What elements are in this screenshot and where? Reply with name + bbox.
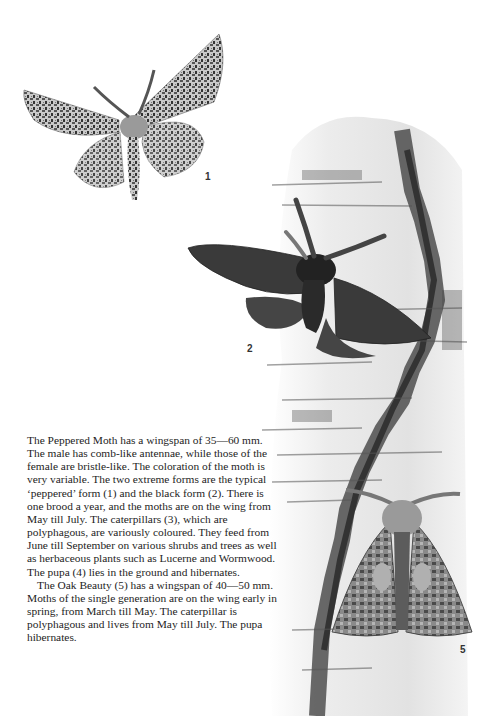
moth-oak-beauty-icon: [328, 482, 474, 637]
peppered-moth-paragraph: The Peppered Moth has a wingspan of 35—6…: [27, 434, 277, 579]
figure-5-oak-beauty: [328, 482, 474, 637]
figure-label-2: 2: [247, 343, 253, 354]
species-description: The Peppered Moth has a wingspan of 35—6…: [27, 434, 277, 645]
moth-peppered-icon: [24, 32, 224, 202]
figure-1-peppered-moth: [24, 32, 224, 202]
figure-2-black-moth: [186, 198, 434, 360]
figure-label-1: 1: [205, 171, 211, 182]
moth-black-icon: [186, 198, 434, 360]
oak-beauty-paragraph: The Oak Beauty (5) has a wingspan of 40—…: [27, 579, 277, 645]
figure-label-5: 5: [460, 644, 466, 655]
book-page: 1 2: [0, 0, 494, 716]
